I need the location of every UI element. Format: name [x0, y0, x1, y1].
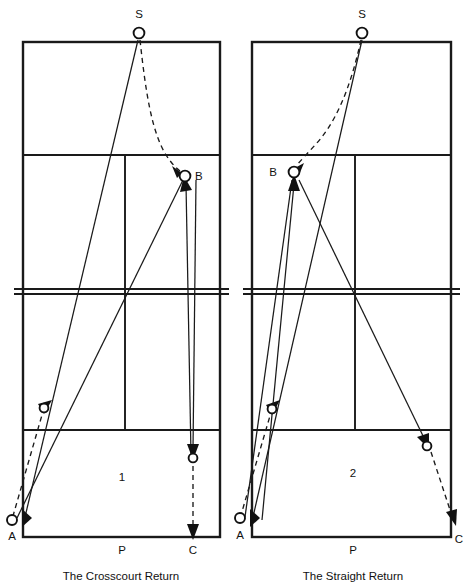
return-crosscourt-line-left [17, 180, 183, 518]
point-label-a-right: A [236, 529, 244, 541]
ball-to-c-bounce-continuation-right [431, 452, 452, 516]
ball-to-c-line-right [299, 180, 425, 440]
serve-path-dashed-left [140, 40, 180, 171]
point-label-b-left: B [195, 170, 203, 182]
bounce-marker-right-sideline-2 [423, 442, 432, 451]
player-label-p-right: P [349, 544, 357, 556]
point-marker-b-left[interactable] [180, 171, 191, 182]
panel-number-1: 1 [119, 471, 125, 483]
point-marker-a-left[interactable] [7, 515, 17, 525]
point-label-a-left: A [8, 530, 16, 542]
diagram-canvas: S B A C 1 P [0, 0, 471, 587]
point-marker-a-right[interactable] [235, 513, 245, 523]
bounce-marker-left-sideline-1 [40, 404, 49, 413]
bounce-marker-right-sideline-1 [189, 454, 198, 463]
tennis-tactics-figure: S B A C 1 P [0, 0, 471, 587]
panel-number-2: 2 [350, 467, 356, 479]
server-approach-line-left [25, 40, 138, 517]
serve-path-dashed-right [297, 40, 361, 165]
point-label-b-right: B [269, 166, 277, 178]
player-label-p-left: P [118, 544, 126, 556]
paths-panel-2 [241, 40, 457, 527]
point-marker-s-left[interactable] [134, 28, 145, 39]
server-approach-arrowhead-right [250, 509, 260, 527]
caption-panel-2: The Straight Return [303, 570, 403, 582]
point-marker-s-right[interactable] [357, 28, 368, 39]
point-label-s-right: S [358, 8, 366, 20]
markers-panel-1: S B A C 1 P [7, 8, 203, 556]
point-label-c-left: C [189, 544, 197, 556]
court-left [14, 42, 229, 537]
down-the-line-line-left [186, 184, 191, 455]
point-marker-b-right[interactable] [289, 167, 300, 178]
incoming-shot-line-right [262, 184, 294, 520]
point-label-s-left: S [135, 8, 143, 20]
server-approach-arrowhead-left [22, 509, 32, 527]
bounce-marker-left-sideline-2 [268, 405, 277, 414]
point-label-c-right: C [455, 533, 463, 545]
caption-panel-1: The Crosscourt Return [63, 570, 179, 582]
ball-to-c-line-left [193, 180, 196, 450]
